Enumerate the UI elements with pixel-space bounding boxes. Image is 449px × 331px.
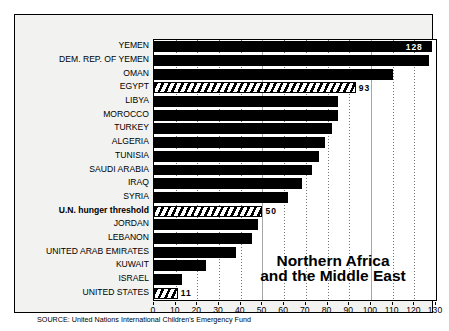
bar-row: 93 [154, 82, 436, 93]
y-axis-label-algeria: ALGERIA [112, 135, 149, 148]
x-tick-label-20: 20 [192, 305, 202, 315]
bar-value-label: 11 [181, 288, 192, 298]
bar-morocco [154, 110, 338, 121]
bar-value-label: 128 [406, 42, 423, 52]
bar-oman [154, 69, 393, 80]
bar-row: 11 [154, 288, 436, 299]
bar-tunisia [154, 151, 319, 162]
y-axis-label-oman: OMAN [123, 67, 149, 80]
y-axis-label-egypt: EGYPT [120, 80, 149, 93]
y-axis-label-tunisia: TUNISIA [115, 149, 149, 162]
y-axis-label-lebanon: LEBANON [108, 231, 149, 244]
y-axis-label-dem-rep-of-yemen: DEM. REP. OF YEMEN [59, 53, 149, 66]
y-axis-label-libya: LIBYA [125, 94, 149, 107]
chart-figure: YEMENDEM. REP. OF YEMENOMANEGYPTLIBYAMOR… [0, 0, 449, 331]
bar-syria [154, 192, 288, 203]
y-axis-label-morocco: MOROCCO [103, 108, 149, 121]
figure-panel: YEMENDEM. REP. OF YEMENOMANEGYPTLIBYAMOR… [14, 14, 433, 313]
bar-row [154, 137, 436, 148]
y-axis-label-israel: ISRAEL [118, 272, 149, 285]
bar-row: 50 [154, 206, 436, 217]
x-tick-label-50: 50 [257, 305, 267, 315]
x-tick-label-110: 110 [385, 305, 399, 315]
x-tick-label-0: 0 [151, 305, 156, 315]
bar-united-arab-emirates [154, 247, 236, 258]
bar-iraq [154, 178, 302, 189]
bar-lebanon [154, 233, 252, 244]
bar-value-label: 50 [265, 206, 276, 216]
bar-kuwait [154, 260, 206, 271]
y-axis-label-yemen: YEMEN [118, 39, 149, 52]
y-axis-label-syria: SYRIA [123, 190, 149, 203]
y-axis-label-united-arab-emirates: UNITED ARAB EMIRATES [46, 245, 149, 258]
y-axis-labels: YEMENDEM. REP. OF YEMENOMANEGYPTLIBYAMOR… [29, 39, 151, 301]
x-tick-label-10: 10 [170, 305, 180, 315]
bar-row [154, 192, 436, 203]
bar-dem-rep-of-yemen [154, 55, 429, 66]
bar-row: 128 [154, 41, 436, 52]
chart-title-line-1: Northern Africa [233, 253, 433, 268]
y-axis-label-iraq: IRAQ [128, 176, 149, 189]
x-tick-label-100: 100 [363, 305, 377, 315]
bar-row [154, 55, 436, 66]
chart-title-line-2: and the Middle East [233, 268, 433, 283]
bar-row [154, 165, 436, 176]
chart-title: Northern Africa and the Middle East [233, 253, 433, 283]
source-note: SOURCE: United Nations International Chi… [37, 315, 251, 324]
y-axis-label-turkey: TURKEY [114, 121, 149, 134]
bar-algeria [154, 137, 325, 148]
bar-row [154, 233, 436, 244]
y-axis-label-saudi-arabia: SAUDI ARABIA [89, 163, 149, 176]
bar-value-label: 93 [359, 83, 370, 93]
bar-row [154, 123, 436, 134]
y-axis-label-u-n-hunger-threshold: U.N. hunger threshold [59, 204, 149, 217]
y-axis-label-united-states: UNITED STATES [82, 286, 149, 299]
bar-israel [154, 274, 182, 285]
bar-egypt [154, 82, 356, 93]
x-tick-label-90: 90 [343, 305, 353, 315]
bar-u-n-hunger-threshold [154, 206, 262, 217]
x-tick-label-80: 80 [322, 305, 332, 315]
bar-row [154, 219, 436, 230]
bar-row [154, 69, 436, 80]
bar-row [154, 96, 436, 107]
x-tick-label-60: 60 [278, 305, 288, 315]
bar-turkey [154, 123, 332, 134]
x-tick-label-70: 70 [300, 305, 310, 315]
bar-row [154, 178, 436, 189]
bar-libya [154, 96, 338, 107]
bar-jordan [154, 219, 258, 230]
bar-saudi-arabia [154, 165, 312, 176]
x-tick-label-40: 40 [235, 305, 245, 315]
gridline-130 [436, 40, 437, 300]
y-axis-label-jordan: JORDAN [114, 217, 149, 230]
x-tick-label-30: 30 [213, 305, 223, 315]
bar-row [154, 110, 436, 121]
x-tick-label-120: 120 [406, 305, 420, 315]
bar-row [154, 151, 436, 162]
y-axis-label-kuwait: KUWAIT [116, 258, 149, 271]
bar-yemen [154, 41, 432, 52]
bar-united-states [154, 288, 178, 299]
x-tick-label-130: 130 [428, 305, 442, 315]
